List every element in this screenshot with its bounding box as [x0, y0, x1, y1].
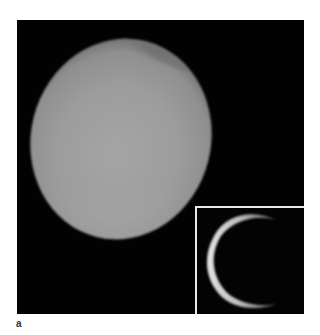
- panel-label: a: [16, 318, 22, 330]
- crescent-ring-graphic: [197, 208, 304, 314]
- figure-panel: a: [0, 0, 320, 335]
- inset-photo: [195, 206, 304, 314]
- main-photo: [17, 20, 304, 314]
